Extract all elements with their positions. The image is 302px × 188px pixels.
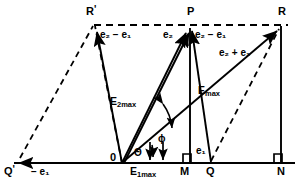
vector-label-e2-plus-e1: e₂ + e₁ bbox=[219, 48, 250, 58]
point-label-N: N bbox=[277, 166, 285, 177]
point-label-origin: 0 bbox=[110, 152, 116, 163]
vector-origin-to-R-Emax bbox=[123, 31, 277, 162]
vector-label-minus-e1: − e₁ bbox=[31, 167, 49, 177]
point-label-P: P bbox=[187, 6, 194, 17]
point-label-Q: Q bbox=[206, 166, 215, 177]
angle-arc-theta bbox=[152, 145, 153, 157]
vector-label-E2max: E2max bbox=[110, 96, 136, 107]
vector-label-e1-at-Q: e₁ bbox=[196, 146, 206, 156]
angle-label-theta: Θ bbox=[134, 148, 142, 158]
point-label-Q-prime: Q' bbox=[4, 166, 15, 177]
vector-label-e2-minus-e1-left: e₂ − e₁ bbox=[100, 30, 131, 40]
point-label-M: M bbox=[180, 166, 189, 177]
vector-label-e2-top: e₂ bbox=[163, 30, 173, 40]
vector-label-Emax: Emax bbox=[198, 86, 220, 96]
angle-label-phi: ϕ bbox=[158, 134, 166, 144]
point-label-R: R bbox=[278, 6, 286, 17]
vector-label-e2-minus-e1-right: e₂ − e₁ bbox=[195, 30, 226, 40]
phasor-diagram-figure: R' P R Q' 0 M Q N e₂ − e₁ e₂ e₂ − e₁ e₂ … bbox=[0, 0, 302, 188]
vector-label-E1max: E1max bbox=[130, 166, 156, 177]
diagram-canvas bbox=[0, 0, 302, 188]
point-label-R-prime: R' bbox=[86, 6, 96, 17]
dashed-side-Qprime-to-Rprime bbox=[20, 26, 93, 158]
